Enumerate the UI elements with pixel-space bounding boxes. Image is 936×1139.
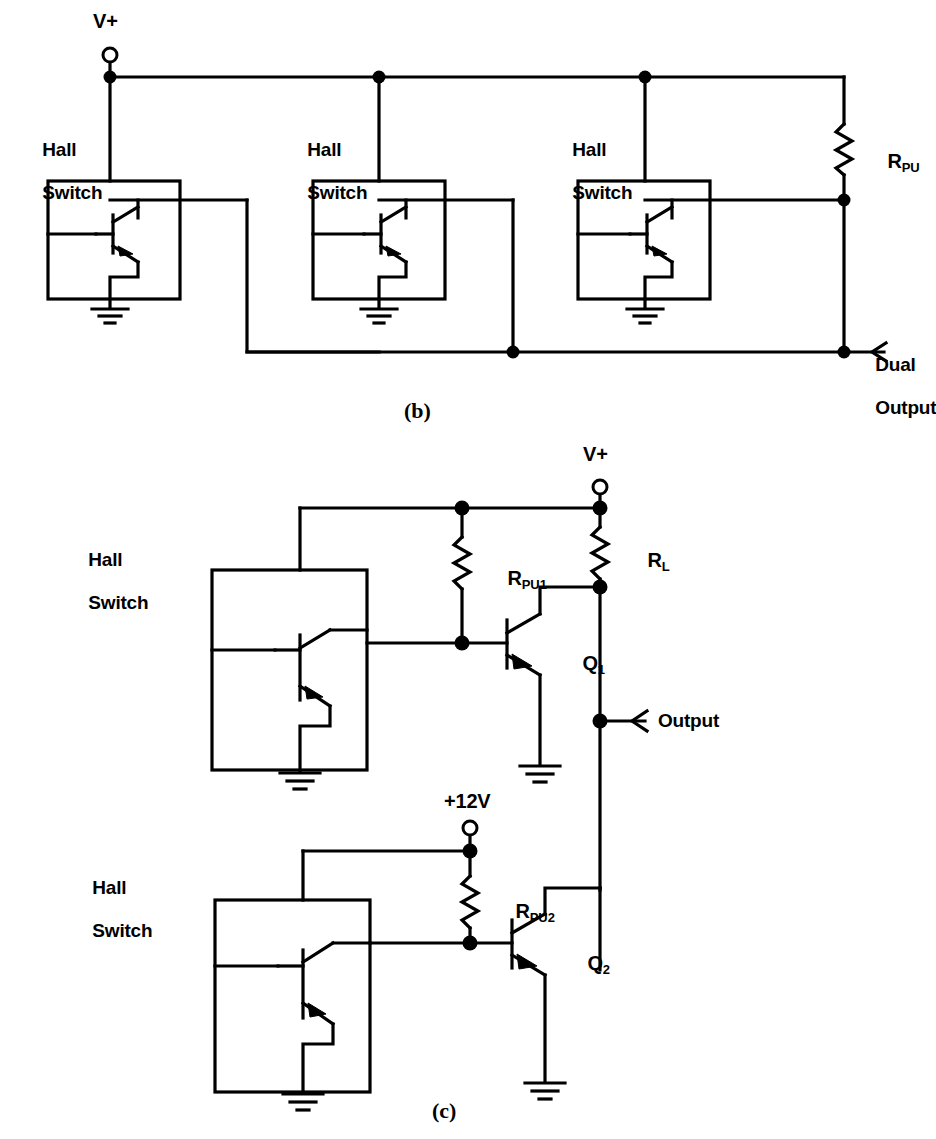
resistor-label-rpu1-main: R <box>507 567 521 589</box>
junction-dot <box>455 636 470 651</box>
hall-switch-label-2-line1: Hall <box>307 139 341 160</box>
hall-switch-label-c2: Hall Switch <box>72 856 152 962</box>
hall-switch-block-c2 <box>215 900 370 1110</box>
hall-switch-block-c1 <box>212 570 367 789</box>
figure-b-circuit <box>48 48 886 361</box>
junction-dot <box>463 936 478 951</box>
resistor-label-rpu2: RPU2 <box>494 878 555 945</box>
transistor-label-q1-sub: 1 <box>598 662 605 677</box>
hall-switch-label-1-line2: Switch <box>42 182 102 203</box>
resistor-label-rl-sub: L <box>662 559 670 574</box>
resistor-label-rpu1-sub: PU1 <box>522 577 547 592</box>
transistor-label-q2-sub: 2 <box>603 962 610 977</box>
output-terminal-c <box>600 711 647 731</box>
resistor-label-rpu-main: R <box>887 150 901 172</box>
resistor-label-rl-main: R <box>647 549 661 571</box>
junction-dot <box>639 71 652 84</box>
resistor-label-rpu2-main: R <box>515 900 529 922</box>
transistor-label-q1-main: Q <box>582 652 597 674</box>
ground-symbol <box>283 1094 323 1110</box>
figure-caption-c: (c) <box>432 1098 456 1124</box>
resistor-label-rpu-sub: PU <box>902 160 920 175</box>
hall-switch-label-2-line2: Switch <box>307 182 367 203</box>
output-label-b-line1: Dual <box>875 354 915 375</box>
hall-switch-label-c2-line1: Hall <box>92 877 126 898</box>
figure-c-circuit <box>212 480 647 1110</box>
ground-symbol <box>361 309 397 323</box>
resistor-rl <box>592 508 608 587</box>
transistor-label-q2: Q2 <box>566 930 610 997</box>
hall-switch-label-3-line1: Hall <box>572 139 606 160</box>
ground-symbol <box>280 773 320 789</box>
ground-symbol <box>520 766 560 782</box>
hall-switch-label-c2-line2: Switch <box>92 920 152 941</box>
resistor-rpu <box>836 124 852 200</box>
resistor-rpu1 <box>454 508 470 643</box>
output-label-b-line2: Output <box>875 397 936 418</box>
supply-label-vplus-b: V+ <box>93 10 118 32</box>
resistor-rpu2 <box>462 851 478 943</box>
resistor-label-rpu2-sub: PU2 <box>530 910 555 925</box>
output-label-b: Dual Output <box>855 333 936 439</box>
output-label-c: Output <box>658 710 719 731</box>
transistor-label-q2-main: Q <box>587 952 602 974</box>
junction-dot <box>104 71 117 84</box>
hall-switch-label-c1-line2: Switch <box>88 592 148 613</box>
ground-symbol <box>525 1083 565 1099</box>
hall-switch-label-3-line2: Switch <box>572 182 632 203</box>
junction-dot <box>507 346 520 359</box>
junction-dot <box>838 194 851 207</box>
ground-symbol <box>92 309 128 323</box>
hall-switch-label-2: Hall Switch <box>287 118 367 224</box>
resistor-label-rpu: RPU <box>866 128 920 195</box>
supply-label-12v: +12V <box>444 790 490 812</box>
hall-switch-label-c1-line1: Hall <box>88 549 122 570</box>
hall-switch-label-1: Hall Switch <box>22 118 102 224</box>
resistor-label-rpu1: RPU1 <box>486 545 547 612</box>
supply-label-vplus-c: V+ <box>583 443 608 465</box>
hall-switch-label-1-line1: Hall <box>42 139 76 160</box>
junction-dot <box>373 71 386 84</box>
transistor-label-q1: Q1 <box>561 630 605 697</box>
hall-switch-label-c1: Hall Switch <box>68 528 148 634</box>
figure-caption-b: (b) <box>404 398 431 424</box>
hall-switch-label-3: Hall Switch <box>552 118 632 224</box>
resistor-label-rl: RL <box>626 527 670 594</box>
ground-symbol <box>627 309 663 323</box>
